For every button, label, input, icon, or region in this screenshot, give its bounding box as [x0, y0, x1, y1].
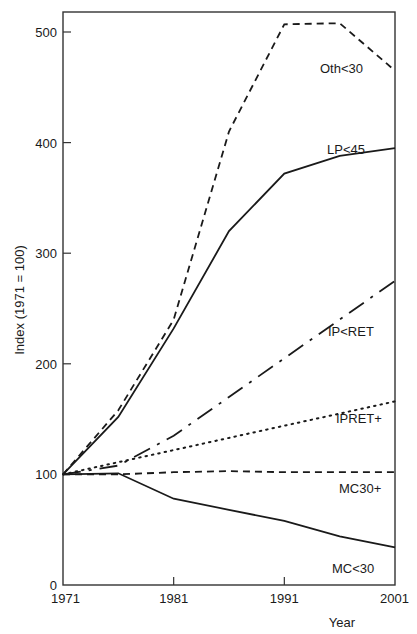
series-label: LP<45 [327, 142, 365, 157]
series-line-ip-ret [63, 281, 395, 475]
series-label: MC30+ [339, 481, 381, 496]
y-axis-ticks: 0100200300400500 [35, 25, 71, 593]
x-axis-title: Year [329, 615, 356, 630]
series-label: IPRET+ [336, 411, 382, 426]
series-line-oth-30 [63, 23, 395, 474]
y-tick-label: 100 [35, 467, 57, 482]
series-label: MC<30 [332, 561, 374, 576]
series-label: IP<RET [328, 324, 374, 339]
x-axis-ticks: 1971198119912001 [51, 577, 409, 606]
line-chart: 0100200300400500 1971198119912001 Oth<30… [0, 0, 417, 634]
y-tick-label: 200 [35, 357, 57, 372]
plot-frame [63, 12, 395, 585]
x-tick-label: 1991 [270, 591, 299, 606]
plot-border [63, 12, 395, 585]
series-labels: Oth<30LP<45IP<RETIPRET+MC30+MC<30 [320, 61, 382, 576]
y-axis-title: Index (1971 = 100) [12, 245, 27, 355]
series-lines [63, 23, 395, 547]
y-tick-label: 300 [35, 246, 57, 261]
x-tick-label: 1971 [51, 591, 80, 606]
series-label: Oth<30 [320, 61, 363, 76]
x-tick-label: 2001 [380, 591, 409, 606]
y-tick-label: 400 [35, 136, 57, 151]
x-tick-label: 1981 [159, 591, 188, 606]
y-tick-label: 500 [35, 25, 57, 40]
